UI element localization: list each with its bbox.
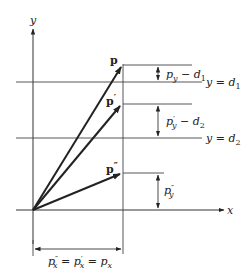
label-y-equals-d1: y = d1 bbox=[205, 76, 241, 91]
label-pyprime-minus-d2: p′y − d2 bbox=[166, 114, 205, 130]
vector-p-label: p bbox=[110, 54, 118, 67]
label-px-equality: p″x = p′x = px bbox=[48, 254, 112, 270]
vector-p bbox=[33, 67, 121, 210]
label-y-equals-d2: y = d2 bbox=[205, 132, 241, 147]
y-axis-label: y bbox=[29, 14, 37, 27]
reflection-diagram: y x p p′ p″ py − d1 p′y − d2 p″y y = d1 … bbox=[0, 0, 247, 278]
label-py-minus-d1: py − d1 bbox=[166, 68, 206, 83]
x-axis-label: x bbox=[227, 204, 234, 217]
label-pydoubleprime: p″y bbox=[164, 183, 174, 199]
vector-p-prime-label: p′ bbox=[106, 93, 117, 108]
vector-p-double-prime bbox=[33, 174, 120, 210]
vector-p-prime bbox=[33, 106, 120, 210]
vector-p-double-prime-label: p″ bbox=[106, 161, 118, 176]
